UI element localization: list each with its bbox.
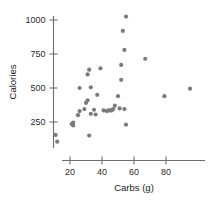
data-point bbox=[76, 113, 80, 117]
data-point bbox=[86, 98, 90, 102]
data-point bbox=[124, 15, 128, 19]
x-tick-label: 60 bbox=[129, 167, 139, 177]
data-point bbox=[143, 57, 147, 61]
data-points bbox=[54, 15, 193, 144]
y-axis-ticks: 2505007501000 bbox=[25, 15, 57, 127]
data-point bbox=[119, 63, 123, 67]
data-point bbox=[55, 140, 59, 144]
y-tick-label: 1000 bbox=[25, 15, 45, 25]
data-point bbox=[71, 123, 75, 127]
data-point bbox=[95, 93, 99, 97]
x-tick-label: 40 bbox=[97, 167, 107, 177]
y-axis-title: Calories bbox=[7, 64, 18, 99]
data-point bbox=[124, 123, 128, 127]
data-point bbox=[92, 108, 96, 112]
data-point bbox=[116, 94, 120, 98]
data-point bbox=[78, 109, 82, 113]
scatter-chart: 2505007501000 20406080 Carbs (g) Calorie… bbox=[0, 0, 211, 201]
y-tick-label: 250 bbox=[30, 117, 45, 127]
chart-canvas: 2505007501000 20406080 Carbs (g) Calorie… bbox=[0, 0, 211, 201]
data-point bbox=[121, 29, 125, 33]
data-point bbox=[188, 87, 192, 91]
data-point bbox=[98, 66, 102, 70]
data-point bbox=[87, 68, 91, 72]
data-point bbox=[89, 85, 93, 89]
data-point bbox=[87, 134, 91, 138]
y-tick-label: 500 bbox=[30, 83, 45, 93]
data-point bbox=[86, 72, 90, 76]
data-point bbox=[118, 106, 122, 110]
data-point bbox=[122, 48, 126, 52]
data-point bbox=[89, 112, 93, 116]
data-point bbox=[94, 112, 98, 116]
x-axis-ticks: 20406080 bbox=[65, 157, 171, 177]
data-point bbox=[82, 107, 86, 111]
y-axis: 2505007501000 bbox=[25, 15, 57, 148]
data-point bbox=[78, 86, 82, 90]
data-point bbox=[122, 107, 126, 111]
data-point bbox=[113, 104, 117, 108]
y-tick-label: 750 bbox=[30, 49, 45, 59]
data-point bbox=[162, 94, 166, 98]
data-point bbox=[54, 133, 58, 137]
x-tick-label: 20 bbox=[65, 167, 75, 177]
data-point bbox=[119, 78, 123, 82]
x-axis: 20406080 bbox=[62, 157, 205, 177]
x-axis-title: Carbs (g) bbox=[114, 182, 154, 193]
x-tick-label: 80 bbox=[161, 167, 171, 177]
